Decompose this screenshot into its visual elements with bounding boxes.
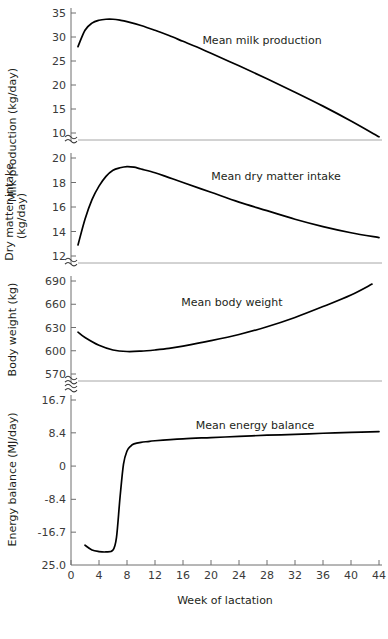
panel-3-y-tick-label: 570	[45, 368, 66, 381]
x-tick-label: 32	[288, 569, 302, 582]
panel-3-y-tick-label: 690	[45, 275, 66, 288]
panel-2-y-tick-label: 20	[52, 152, 66, 165]
panel-1-y-tick-label: 35	[52, 7, 66, 20]
x-tick-label: 28	[260, 569, 274, 582]
panel-2-y-tick-label: 16	[52, 201, 66, 214]
panel-3-y-axis-title: Body weight (kg)	[6, 283, 19, 377]
axis-break-wave	[65, 389, 77, 392]
x-tick-label: 44	[372, 569, 386, 582]
panel-3-y-tick-label: 600	[45, 345, 66, 358]
panel-4-y-axis-title: Energy balance (MJ/day)	[6, 412, 19, 546]
panel-1-annotation: Mean milk production	[202, 34, 321, 47]
panel-4-y-tick-label: -8.4	[45, 493, 66, 506]
x-tick-label: 0	[68, 569, 75, 582]
panel-1-y-tick-label: 20	[52, 79, 66, 92]
x-tick-label: 36	[316, 569, 330, 582]
panel-1-y-tick-label: 30	[52, 31, 66, 44]
panel-2-y-tick-label: 12	[52, 250, 66, 263]
x-tick-label: 16	[176, 569, 190, 582]
panel-4-y-tick-label: -16.7	[38, 526, 66, 539]
panel-4-y-tick-label: 16.7	[42, 394, 67, 407]
panel-2-y-tick-label: 14	[52, 226, 66, 239]
panel-1-y-tick-label: 25	[52, 55, 66, 68]
panel-2-annotation: Mean dry matter intake	[211, 170, 341, 183]
axis-break-wave	[65, 384, 77, 387]
panel-2-y-axis-title-units: (kg/day)	[15, 193, 28, 239]
panel-4-annotation: Mean energy balance	[196, 419, 315, 432]
panel-3-annotation: Mean body weight	[181, 296, 283, 309]
panel-3-y-tick-label: 630	[45, 322, 66, 335]
panel-1-y-tick-label: 10	[52, 127, 66, 140]
lactation-multi-panel-figure: 353025201510201816141269066063060057016.…	[0, 0, 388, 639]
x-tick-label: 20	[204, 569, 218, 582]
axis-break-icon	[65, 384, 77, 392]
panel-4-y-tick-label: 0	[59, 460, 66, 473]
figure-canvas: 353025201510201816141269066063060057016.…	[0, 0, 388, 639]
x-tick-label: 24	[232, 569, 246, 582]
panel-1-y-tick-label: 15	[52, 103, 66, 116]
x-tick-label: 12	[148, 569, 162, 582]
panel-3-y-tick-label: 660	[45, 298, 66, 311]
x-tick-label: 4	[96, 569, 103, 582]
panel-4-curve	[85, 432, 379, 552]
panel-2-y-tick-label: 18	[52, 177, 66, 190]
panel-3-curve	[78, 284, 372, 351]
panel-4-y-tick-label: 8.4	[49, 427, 67, 440]
x-axis-title: Week of lactation	[177, 594, 273, 607]
x-tick-label: 8	[124, 569, 131, 582]
panel-4-y-bottom-label: 25.0	[42, 559, 67, 572]
x-tick-label: 40	[344, 569, 358, 582]
